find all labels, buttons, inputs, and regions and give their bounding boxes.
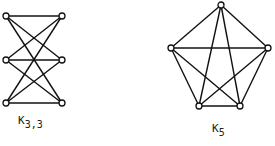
vertex — [59, 100, 65, 106]
vertex — [265, 45, 271, 51]
edge — [171, 48, 199, 106]
vertex — [218, 2, 224, 8]
k33-graph — [3, 13, 65, 106]
vertex — [3, 100, 9, 106]
k5-label-main: K — [212, 122, 219, 135]
vertex — [168, 45, 174, 51]
vertex — [3, 57, 9, 63]
edge — [240, 48, 268, 106]
k33-label-main: K — [18, 114, 25, 127]
k33-label-sub: 3,3 — [25, 119, 43, 130]
k5-label: K5 — [212, 122, 225, 138]
k5-label-sub: 5 — [219, 127, 225, 138]
vertex — [237, 103, 243, 109]
k33-label: K3,3 — [18, 114, 43, 130]
vertex — [59, 57, 65, 63]
vertex — [3, 13, 9, 19]
vertex — [59, 13, 65, 19]
k5-graph — [168, 2, 271, 109]
vertex — [196, 103, 202, 109]
edge — [171, 48, 240, 106]
